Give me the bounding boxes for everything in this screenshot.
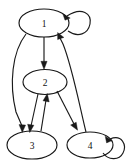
node-2-label: 2 (43, 78, 48, 88)
edge-2-to-3 (28, 94, 38, 133)
edge-1-self-loop (63, 11, 90, 34)
edge-2-to-3-line (31, 94, 38, 126)
edge-1-to-2-arrowhead (41, 61, 47, 69)
node-3-label: 3 (30, 141, 35, 151)
edge-4-to-1-line (60, 38, 86, 132)
node-3[interactable]: 3 (7, 131, 57, 159)
edge-3-to-2-line (41, 100, 46, 131)
node-4[interactable]: 4 (67, 132, 113, 158)
edge-2-to-4-line (57, 91, 74, 124)
edge-4-to-1 (58, 33, 86, 132)
edge-4-self-loop (103, 136, 124, 158)
node-2[interactable]: 2 (23, 70, 67, 95)
edge-3-to-2 (41, 94, 49, 131)
edge-1-to-3 (12, 34, 26, 133)
edge-2-to-4 (57, 91, 78, 130)
node-1-label: 1 (42, 19, 47, 29)
node-1[interactable]: 1 (19, 9, 69, 37)
edge-2-to-4-arrowhead (71, 122, 78, 130)
node-4-label: 4 (88, 141, 93, 151)
edge-1-to-3-line (12, 34, 26, 126)
edge-1-to-2 (41, 37, 47, 70)
edge-1-self-loop-line (67, 11, 90, 34)
directed-graph-canvas: 1 2 3 4 (0, 0, 128, 167)
